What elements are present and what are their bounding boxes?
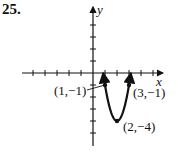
parabola-graph: xy (1,−1)(3,−1)(2,−4) (0, 0, 178, 153)
point-label: (1,−1) (54, 83, 86, 98)
point-marker (127, 83, 131, 87)
point-marker (115, 119, 119, 123)
point-label: (3,−1) (133, 85, 165, 100)
point-label: (2,−4) (123, 119, 155, 134)
parabola-curve (103, 73, 131, 121)
y-axis-label: y (95, 2, 103, 17)
